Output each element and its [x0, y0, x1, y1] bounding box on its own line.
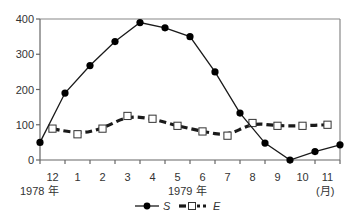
series-s [36, 19, 343, 164]
x-tick-label: 2 [99, 171, 105, 183]
svg-text:S: S [163, 200, 171, 212]
data-point-e [274, 122, 281, 129]
data-point-s [261, 139, 268, 146]
x-tick-label: 3 [124, 171, 130, 183]
data-point-s [111, 38, 118, 45]
data-point-e [149, 115, 156, 122]
x-tick-label: 4 [149, 171, 155, 183]
line-chart: 0100200300400 121234567891011 1978 年 197… [0, 0, 354, 221]
x-tick-label: 12 [46, 171, 58, 183]
y-tick-label: 400 [16, 13, 34, 25]
data-point-s [211, 68, 218, 75]
y-tick-label: 200 [16, 84, 34, 96]
data-point-s [161, 24, 168, 31]
x-tick-label: 9 [274, 171, 280, 183]
x-tick-label: 1 [74, 171, 80, 183]
y-tick-label: 300 [16, 48, 34, 60]
legend: S E [135, 200, 221, 212]
data-point-e [174, 122, 181, 129]
svg-text:E: E [213, 200, 221, 212]
x-axis-ticks: 121234567891011 [40, 160, 340, 183]
legend-item-s: S [135, 200, 171, 212]
filled-circle-marker-icon [144, 203, 151, 210]
data-point-s [186, 33, 193, 40]
month-unit-label: (月) [316, 185, 334, 197]
y-axis-ticks: 0100200300400 [16, 13, 40, 166]
open-square-marker-icon [189, 203, 196, 210]
data-point-s [86, 62, 93, 69]
y-tick-label: 0 [28, 154, 34, 166]
x-tick-label: 11 [322, 171, 333, 183]
legend-item-e: E [179, 200, 221, 212]
x-tick-label: 5 [174, 171, 180, 183]
data-point-s [236, 110, 243, 117]
y-tick-label: 100 [16, 119, 34, 131]
data-point-e [199, 128, 206, 135]
data-point-e [99, 125, 106, 132]
data-point-e [299, 122, 306, 129]
year-label-1979: 1979 年 [168, 184, 207, 197]
data-point-e [74, 131, 81, 138]
x-tick-label: 10 [296, 171, 308, 183]
series-e [49, 112, 331, 139]
data-point-s [36, 139, 43, 146]
x-tick-label: 7 [224, 171, 230, 183]
data-point-s [286, 156, 293, 163]
data-point-e [49, 125, 56, 132]
year-label-1978: 1978 年 [20, 184, 59, 197]
data-point-e [124, 112, 131, 119]
data-point-s [311, 148, 318, 155]
data-point-s [136, 19, 143, 26]
x-tick-label: 8 [249, 171, 255, 183]
data-point-e [224, 132, 231, 139]
data-point-s [336, 141, 343, 148]
data-point-e [324, 121, 331, 128]
data-point-s [61, 89, 68, 96]
x-tick-label: 6 [199, 171, 205, 183]
